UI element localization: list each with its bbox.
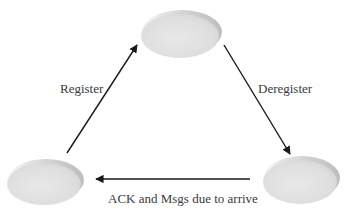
node-top bbox=[141, 10, 222, 58]
register-label: Register bbox=[60, 82, 103, 95]
node-bottom-left bbox=[7, 159, 84, 205]
register-arrow bbox=[67, 45, 137, 153]
node-bottom-right bbox=[263, 156, 340, 204]
diagram-canvas bbox=[0, 0, 344, 211]
ack-label: ACK and Msgs due to arrive bbox=[108, 192, 258, 205]
deregister-arrow bbox=[224, 45, 290, 154]
deregister-label: Deregister bbox=[258, 82, 312, 95]
